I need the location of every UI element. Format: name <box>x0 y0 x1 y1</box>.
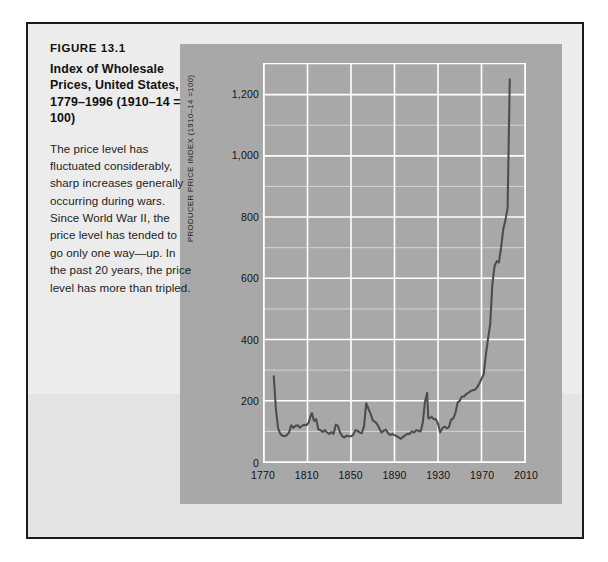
figure-description: The price level has fluctuated considera… <box>50 140 192 297</box>
series-line-producer-price-index <box>264 64 525 462</box>
y-tick-label: 1,000 <box>215 149 259 161</box>
figure-number: FIGURE 13.1 <box>50 42 192 54</box>
x-axis-tick-labels: 1770181018501890193019702010 <box>263 469 526 485</box>
y-tick-label: 1,200 <box>215 88 259 100</box>
plot-area <box>263 63 526 463</box>
chart: PRODUCER PRICE INDEX (1910–14 =100) 0200… <box>180 44 562 504</box>
y-tick-label: 200 <box>215 395 259 407</box>
y-tick-label: 600 <box>215 272 259 284</box>
y-tick-label: 0 <box>215 457 259 469</box>
y-tick-label: 800 <box>215 211 259 223</box>
y-axis-tick-labels: 02004006008001,0001,200 <box>209 63 259 463</box>
y-tick-label: 400 <box>215 334 259 346</box>
x-tick-label: 2010 <box>499 469 553 481</box>
figure-title: Index of Wholesale Prices, United States… <box>50 61 192 127</box>
figure-caption: FIGURE 13.1 Index of Wholesale Prices, U… <box>50 42 192 296</box>
figure-panel: FIGURE 13.1 Index of Wholesale Prices, U… <box>26 22 584 539</box>
